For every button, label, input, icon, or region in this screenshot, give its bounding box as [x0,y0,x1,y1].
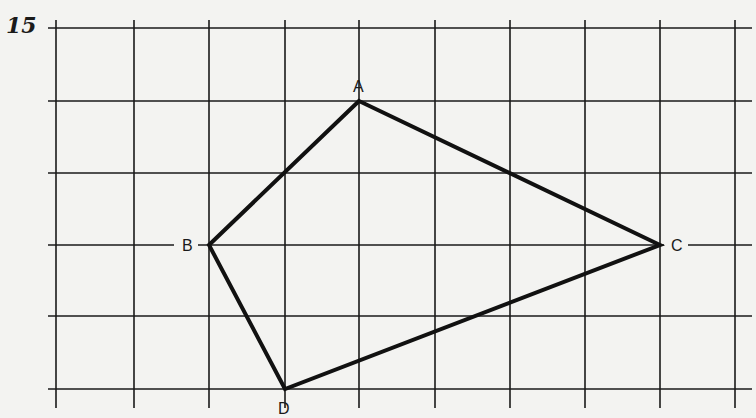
grid-lines [48,20,752,408]
quadrilateral-diagram: A B C D [0,0,756,418]
vertex-label-b: B [182,237,193,254]
vertex-label-d: D [278,400,290,417]
vertex-label-a: A [353,78,364,95]
vertex-label-c: C [671,237,683,254]
